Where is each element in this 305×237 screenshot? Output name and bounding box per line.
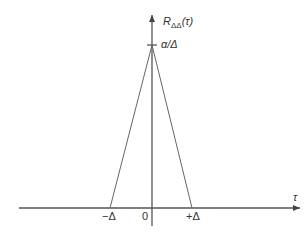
autocorrelation-diagram: RΔΔ(τ) α/Δ τ −Δ 0 +Δ bbox=[0, 0, 305, 237]
tick-label-minus-delta: −Δ bbox=[102, 210, 116, 222]
y-axis-label: RΔΔ(τ) bbox=[163, 15, 193, 30]
triangle-right-edge bbox=[152, 45, 192, 208]
tick-label-origin: 0 bbox=[142, 210, 148, 222]
tick-label-plus-delta: +Δ bbox=[186, 210, 200, 222]
triangle-left-edge bbox=[110, 45, 152, 208]
x-axis-label: τ bbox=[293, 191, 298, 203]
peak-label: α/Δ bbox=[161, 38, 178, 50]
